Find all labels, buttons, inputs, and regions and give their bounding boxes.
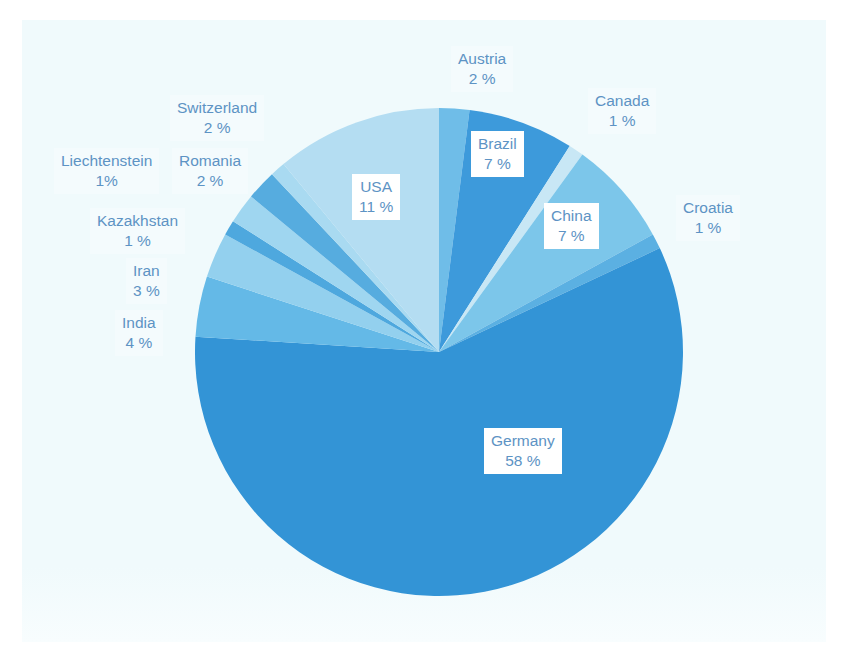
slice-label-romania-value: 2 % (179, 171, 241, 191)
slice-label-kazakhstan-value: 1 % (97, 231, 178, 251)
slice-label-brazil-value: 7 % (478, 154, 517, 174)
slice-label-usa-value: 11 % (359, 197, 393, 217)
slice-label-germany-name: Germany (491, 431, 555, 451)
slice-label-canada-value: 1 % (595, 111, 649, 131)
slice-label-india-name: India (122, 313, 156, 333)
pie-slice-group (195, 108, 683, 596)
slice-label-india-value: 4 % (122, 333, 156, 353)
pie-plot-area (195, 108, 683, 596)
slice-label-liechtenstein-name: Liechtenstein (61, 151, 152, 171)
slice-label-romania: Romania 2 % (172, 148, 248, 194)
slice-label-iran-value: 3 % (133, 281, 160, 301)
slice-label-switzerland-name: Switzerland (177, 98, 257, 118)
slice-label-canada: Canada 1 % (588, 88, 656, 134)
slice-label-austria: Austria 2 % (451, 46, 513, 92)
slice-label-germany: Germany 58 % (484, 428, 562, 474)
slice-label-switzerland-value: 2 % (177, 118, 257, 138)
slice-label-brazil-name: Brazil (478, 134, 517, 154)
slice-label-iran: Iran 3 % (126, 258, 167, 304)
slice-label-china-name: China (551, 206, 592, 226)
slice-label-iran-name: Iran (133, 261, 160, 281)
slice-label-kazakhstan: Kazakhstan 1 % (90, 208, 185, 254)
slice-label-switzerland: Switzerland 2 % (170, 95, 264, 141)
slice-label-croatia-name: Croatia (683, 198, 733, 218)
slice-label-canada-name: Canada (595, 91, 649, 111)
slice-label-china-value: 7 % (551, 226, 592, 246)
slice-label-liechtenstein: Liechtenstein 1% (54, 148, 159, 194)
slice-label-brazil: Brazil 7 % (471, 131, 524, 177)
slice-label-china: China 7 % (544, 203, 599, 249)
slice-label-india: India 4 % (115, 310, 163, 356)
slice-label-germany-value: 58 % (491, 451, 555, 471)
pie-chart-figure: Austria 2 % Brazil 7 % Canada 1 % China … (0, 0, 848, 655)
slice-label-usa: USA 11 % (352, 174, 400, 220)
slice-label-croatia: Croatia 1 % (676, 195, 740, 241)
slice-label-romania-name: Romania (179, 151, 241, 171)
slice-label-kazakhstan-name: Kazakhstan (97, 211, 178, 231)
slice-label-austria-value: 2 % (458, 69, 506, 89)
slice-label-croatia-value: 1 % (683, 218, 733, 238)
slice-label-austria-name: Austria (458, 49, 506, 69)
slice-label-liechtenstein-value: 1% (61, 171, 152, 191)
slice-label-usa-name: USA (359, 177, 393, 197)
pie-svg (195, 108, 683, 596)
